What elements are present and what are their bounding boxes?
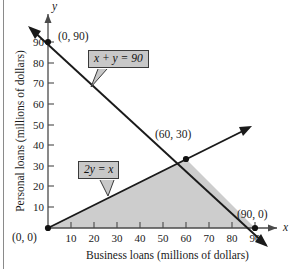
y-tick-label-70: 70 (24, 77, 44, 89)
x-tick-label-50: 50 (152, 232, 174, 244)
y-tick-marks (48, 42, 54, 207)
x-tick-label-80: 80 (221, 232, 243, 244)
y-tick-label-60: 60 (24, 98, 44, 110)
y-tick-label-90: 90 (24, 36, 44, 48)
x-axis-variable: x (283, 221, 288, 233)
data-point-0-0 (45, 225, 51, 231)
callout-line-x-plus-y-90: x + y = 90 (88, 50, 149, 68)
label-point-90-0: (90, 0) (237, 208, 268, 220)
x-tick-label-10: 10 (60, 232, 82, 244)
y-tick-label-10: 10 (24, 201, 44, 213)
label-point-0-90: (0, 90) (58, 30, 89, 42)
line-2y-equals-x-arrow (239, 126, 252, 136)
y-tick-label-50: 50 (24, 119, 44, 131)
y-axis-arrowhead (45, 14, 52, 23)
x-axis-arrowhead (268, 225, 277, 232)
graph-figure: x + y = 90 2y = x (0, 90) (60, 30) (90, … (0, 0, 302, 269)
y-axis-variable: y (52, 0, 57, 12)
callout-tail-2y-x (100, 180, 114, 196)
label-point-60-30: (60, 30) (155, 128, 191, 140)
data-point-60-30 (183, 156, 189, 162)
y-tick-label-80: 80 (24, 57, 44, 69)
x-tick-label-70: 70 (198, 232, 220, 244)
data-point-90-0 (252, 225, 258, 231)
y-tick-label-40: 40 (24, 139, 44, 151)
x-tick-label-40: 40 (129, 232, 151, 244)
x-tick-label-60: 60 (175, 232, 197, 244)
x-tick-label-20: 20 (83, 232, 105, 244)
x-tick-label-90: 90 (244, 232, 266, 244)
data-point-0-90 (45, 39, 51, 45)
x-tick-label-30: 30 (106, 232, 128, 244)
callout-tail-x-plus-y (91, 69, 107, 87)
coordinate-plane (0, 0, 302, 269)
y-tick-label-20: 20 (24, 180, 44, 192)
y-axis-title: Personal loans (millions of dollars) (14, 24, 26, 239)
y-tick-label-30: 30 (24, 160, 44, 172)
x-axis-title: Business loans (millions of dollars) (60, 249, 275, 261)
callout-line-2y-equals-x: 2y = x (78, 161, 119, 179)
